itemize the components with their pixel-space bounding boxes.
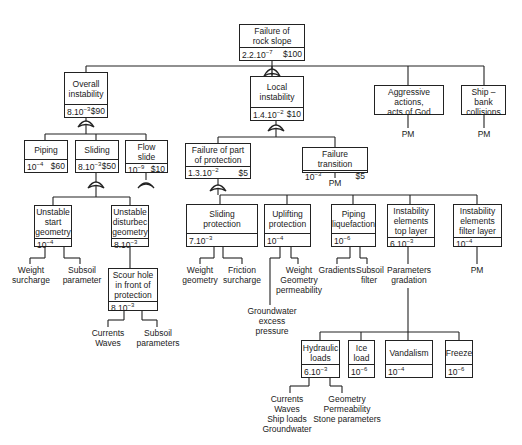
node-unstable-start-geometry: Unstable start geometry 10−4 [34, 205, 72, 247]
node-piping-liquefaction: Piping liquefaction 10−6 [331, 204, 376, 247]
probability: 1.4.10−2 [253, 109, 283, 120]
cost: $90 [91, 106, 105, 116]
node-title: Failure of rock slope [240, 25, 304, 47]
node-title: Hydraulic loads [302, 341, 339, 364]
leaf-hydraulic-parameters: Geometry Permeability Stone parameters [312, 394, 382, 424]
node-failure-of-rock-slope: Failure of rock slope 2.2.10−7$100 [239, 24, 305, 61]
node-unstable-disturbed-geometry: Unstable disturbec geometry 8.10−3 [111, 205, 149, 247]
leaf-pm: PM [465, 265, 489, 275]
leaf-weight-geometry: Weight geometry [180, 265, 220, 285]
probability: 2.2.10−7 [242, 49, 272, 60]
node-title: Ice load [349, 341, 374, 364]
node-title: Scour hole in front of protection [109, 269, 157, 301]
node-instability-filter-layer: Instability elements filter layer 10−4 [453, 204, 502, 247]
node-title: Ship – bank collisions [462, 86, 505, 118]
node-ship-bank-collisions: Ship – bank collisions [461, 85, 506, 115]
node-title: Freeze [446, 341, 472, 364]
node-title: Sliding [76, 141, 118, 159]
node-title: Unstable start geometry [35, 206, 71, 238]
node-failure-transition: Failure transition 10−3$5 [302, 147, 368, 173]
node-aggressive-actions: Aggressive actions, acts of God [374, 85, 444, 115]
leaf-currents-waves: Currents Waves [88, 328, 128, 348]
node-instability-top-layer: Instability elements top layer 6.10−3 [387, 204, 435, 247]
node-title: Failure of part of protection [186, 144, 250, 166]
cost: $60 [51, 161, 65, 171]
probability: 6.10−3 [304, 366, 327, 377]
leaf-pm: PM [472, 129, 496, 139]
node-title: Uplifting protection [265, 205, 310, 233]
node-title: Sliding protection [187, 205, 257, 233]
node-title: Vandalism [386, 341, 432, 364]
cost: $5 [239, 168, 248, 178]
probability: 10−4 [37, 239, 53, 250]
leaf-weight-surcharge: Weight surcharge [12, 265, 50, 285]
leaf-hydraulic-causes: Currents Waves Ship loads Groundwater [262, 394, 312, 434]
probability: 10−6 [351, 366, 367, 377]
probability: 10−4 [388, 366, 404, 377]
cost: $10 [287, 109, 301, 119]
cost: $10 [151, 164, 165, 174]
node-title: Instability elements filter layer [454, 205, 501, 237]
node-title: Local instability [251, 77, 303, 107]
cost: $50 [102, 161, 116, 171]
node-piping: Piping 10−4$60 [24, 140, 68, 173]
node-title: Overall instability [65, 73, 107, 104]
node-vandalism: Vandalism 10−4 [385, 340, 433, 378]
probability: 8.10−3 [111, 302, 134, 313]
node-overall-instability: Overall instability 8.10−3$90 [64, 72, 108, 118]
leaf-subsoil-parameter: Subsoil parameter [60, 265, 104, 285]
node-sliding: Sliding 8.10−3$50 [75, 140, 119, 173]
node-title: Flow slide [126, 141, 167, 163]
leaf-gradients: Gradients [317, 265, 357, 275]
probability: 1.3.10−2 [188, 167, 218, 178]
node-title: Unstable disturbec geometry [112, 206, 148, 238]
probability: 6.10−3 [390, 238, 413, 249]
cost: $5 [356, 171, 365, 181]
probability: 10−6 [448, 366, 464, 377]
node-title: Instability elements top layer [388, 205, 434, 237]
probability: 10−6 [334, 235, 350, 246]
node-hydraulic-loads: Hydraulic loads 6.10−3 [301, 340, 340, 378]
node-ice-load: Ice load 10−6 [348, 340, 375, 378]
node-uplifting-protection: Uplifting protection 10−4 [264, 204, 311, 247]
leaf-subsoil-filter: Subsoil filter [356, 265, 382, 285]
probability: 8.10−3 [78, 161, 101, 172]
leaf-pm: PM [396, 129, 420, 139]
probability: 10−4 [267, 235, 283, 246]
node-sliding-protection: Sliding protection 7.10−3 [186, 204, 258, 247]
node-title: Aggressive actions, acts of God [375, 86, 443, 118]
leaf-pm: PM [323, 178, 347, 188]
leaf-friction-surcharge: Friction surcharge [222, 265, 262, 285]
probability: 10−4 [27, 161, 43, 172]
node-flow-slide: Flow slide 10−9$10 [125, 140, 168, 173]
probability: 7.10−3 [189, 235, 212, 246]
leaf-subsoil-parameters: Subsoil parameters [136, 328, 180, 348]
probability: 10−3 [305, 171, 321, 182]
probability: 10−9 [128, 164, 144, 175]
node-title: Failure transition [303, 148, 367, 170]
node-title: Piping [25, 141, 67, 159]
leaf-groundwater-excess-pressure: Groundwater excess pressure [242, 306, 302, 336]
probability: 8.10−3 [114, 239, 137, 250]
node-local-instability: Local instability 1.4.10−2$10 [250, 76, 304, 121]
cost: $100 [283, 49, 302, 59]
leaf-parameters-gradation: Parameters gradation [384, 265, 434, 285]
connector-lines [0, 0, 522, 445]
probability: 10−4 [456, 238, 472, 249]
leaf-weight-geometry-permeability: Weight Geometry permeability [276, 265, 322, 295]
node-failure-of-part: Failure of part of protection 1.3.10−2$5 [185, 143, 251, 179]
node-scour-hole: Scour hole in front of protection 8.10−3 [108, 268, 158, 311]
probability: 8.10−3 [67, 106, 90, 117]
node-freeze: Freeze 10−6 [445, 340, 473, 378]
node-title: Piping liquefaction [332, 205, 375, 233]
